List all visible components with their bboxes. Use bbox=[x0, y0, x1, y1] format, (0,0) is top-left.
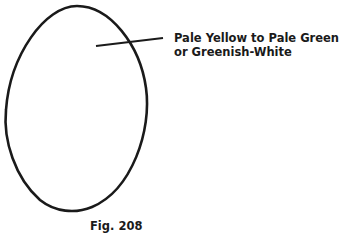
figure-caption: Fig. 208 bbox=[90, 219, 142, 233]
color-label: Pale Yellow to Pale Green or Greenish-Wh… bbox=[174, 31, 339, 59]
leader-line bbox=[96, 38, 163, 46]
color-label-line2: or Greenish-White bbox=[174, 45, 339, 59]
egg-outline bbox=[6, 6, 147, 211]
color-label-line1: Pale Yellow to Pale Green bbox=[174, 31, 339, 45]
